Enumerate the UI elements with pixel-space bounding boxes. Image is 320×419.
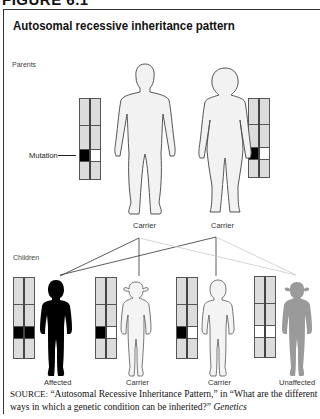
child2-chromosome-pair (95, 277, 117, 359)
affected-child-figure-icon (38, 279, 74, 379)
carrier-boy-figure-icon (200, 279, 236, 379)
child3-label: Carrier (208, 378, 231, 387)
child2-label: Carrier (126, 378, 149, 387)
child1-label: Affected (44, 378, 71, 387)
source-text: “Autosomal Recessive Inheritance Pattern… (10, 389, 317, 412)
source-italic: Genetics (213, 402, 246, 412)
child4-chromosome-pair (254, 276, 276, 358)
child1-chromosome-pair (13, 277, 35, 359)
child4-label: Unaffected (279, 378, 315, 387)
unaffected-girl-figure-icon (279, 279, 315, 379)
child3-chromosome-pair (176, 277, 198, 359)
source-prefix: SOURCE: (10, 389, 48, 399)
carrier-girl-figure-icon (118, 279, 154, 379)
source-citation: SOURCE: “Autosomal Recessive Inheritance… (10, 388, 320, 414)
